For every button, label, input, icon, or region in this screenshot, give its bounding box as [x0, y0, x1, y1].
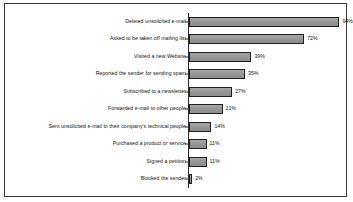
bar-track: 27%	[189, 87, 341, 97]
bar-row: Subscribed to a newsletter27%	[8, 83, 343, 101]
axis-tick	[185, 21, 188, 22]
axis-tick	[185, 126, 188, 127]
bar-track: 72%	[189, 34, 341, 44]
bar	[189, 174, 192, 184]
bar-track: 94%	[189, 17, 341, 27]
bar-row: Asked to be taken off mailing list72%	[8, 31, 343, 49]
bar-track: 21%	[189, 104, 341, 114]
bar-value-label: 14%	[214, 124, 224, 129]
bar	[189, 104, 223, 114]
bar-track: 11%	[189, 157, 341, 167]
bar-value-label: 27%	[235, 89, 245, 94]
category-label: Reported the sender for sending spam	[96, 72, 186, 77]
category-label: Visited a new Website	[134, 54, 186, 59]
category-label: Signed a petition	[147, 159, 187, 164]
bar-track: 35%	[189, 69, 341, 79]
plot-area: Deleted unsolicited e-mail94%Asked to be…	[8, 7, 343, 193]
bar	[189, 34, 304, 44]
category-label: Deleted unsolicited e-mail	[125, 19, 186, 24]
bar-row: Sent unsolicited e-mail to their company…	[8, 118, 343, 136]
bar-value-label: 21%	[226, 107, 236, 112]
axis-tick	[185, 74, 188, 75]
category-label: Subscribed to a newsletter	[124, 89, 186, 94]
bar	[189, 122, 211, 132]
bar-value-label: 39%	[254, 54, 264, 59]
bar	[189, 157, 207, 167]
category-label: Forwarded e-mail to other people	[108, 107, 186, 112]
bar-value-label: 2%	[195, 177, 203, 182]
bar-track: 39%	[189, 52, 341, 62]
bar-value-label: 11%	[210, 142, 220, 147]
axis-tick	[185, 91, 188, 92]
bar-value-label: 11%	[210, 159, 220, 164]
bar-row: Visited a new Website39%	[8, 48, 343, 66]
chart-frame: Deleted unsolicited e-mail94%Asked to be…	[4, 3, 347, 197]
bar-track: 2%	[189, 174, 341, 184]
bar-row: Forwarded e-mail to other people21%	[8, 101, 343, 119]
bar-row: Reported the sender for sending spam35%	[8, 66, 343, 84]
bar	[189, 69, 245, 79]
category-label: Purchased a product or service	[113, 142, 186, 147]
axis-tick	[185, 39, 188, 40]
bar-value-label: 72%	[307, 37, 317, 42]
bar-rows: Deleted unsolicited e-mail94%Asked to be…	[8, 13, 343, 188]
bar-row: Signed a petition11%	[8, 153, 343, 171]
bar	[189, 17, 339, 27]
bar-track: 11%	[189, 139, 341, 149]
bar-row: Blocked the sender2%	[8, 171, 343, 189]
bar-value-label: 35%	[248, 72, 258, 77]
category-label: Asked to be taken off mailing list	[110, 37, 186, 42]
bar-row: Purchased a product or service11%	[8, 136, 343, 154]
axis-tick	[185, 56, 188, 57]
axis-tick	[185, 144, 188, 145]
axis-tick	[185, 179, 188, 180]
bar-value-label: 94%	[342, 19, 352, 24]
bar	[189, 139, 207, 149]
bar	[189, 87, 232, 97]
axis-tick	[185, 161, 188, 162]
bar-row: Deleted unsolicited e-mail94%	[8, 13, 343, 31]
bar-track: 14%	[189, 122, 341, 132]
category-label: Blocked the sender	[141, 177, 186, 182]
axis-tick	[185, 109, 188, 110]
category-label: Sent unsolicited e-mail to their company…	[49, 124, 186, 129]
bar	[189, 52, 251, 62]
